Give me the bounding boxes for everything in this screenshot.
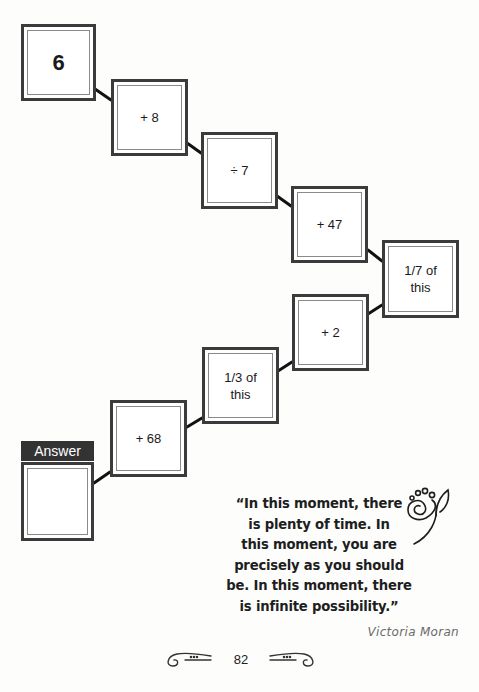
step-label: 1/7 of this	[399, 262, 443, 296]
step-box-4: 1/7 of this	[382, 240, 459, 318]
left-swirl-ornament-icon	[163, 648, 213, 670]
start-number-box: 6	[21, 24, 96, 101]
quote-line: precisely as you should	[218, 556, 420, 577]
step-label: + 68	[136, 430, 162, 447]
quote-line: be. In this moment, there	[218, 576, 420, 597]
step-box-5: + 2	[292, 294, 369, 371]
step-box-1: + 8	[111, 79, 188, 156]
quote-line: “In this moment, there	[218, 494, 420, 515]
answer-label: Answer	[21, 441, 94, 461]
quote-line: this moment, you are	[218, 535, 420, 556]
quote-line: is infinite possibility.”	[218, 597, 420, 618]
step-box-7: + 68	[110, 400, 187, 477]
inspirational-quote: “In this moment, there is plenty of time…	[218, 494, 420, 617]
quote-line: is plenty of time. In	[218, 515, 420, 536]
step-box-6: 1/3 of this	[202, 347, 279, 424]
step-label: + 8	[140, 109, 158, 126]
step-label: + 47	[317, 216, 343, 233]
step-label: + 2	[321, 324, 339, 341]
step-box-3: + 47	[291, 186, 368, 263]
step-label: 1/3 of this	[219, 369, 263, 403]
right-swirl-ornament-icon	[268, 648, 318, 670]
step-label: ÷ 7	[231, 162, 249, 179]
page-number: 82	[226, 652, 256, 667]
answer-box[interactable]	[21, 462, 94, 541]
step-box-2: ÷ 7	[201, 132, 278, 209]
start-number: 6	[52, 54, 64, 71]
quote-author: Victoria Moran	[368, 625, 459, 639]
